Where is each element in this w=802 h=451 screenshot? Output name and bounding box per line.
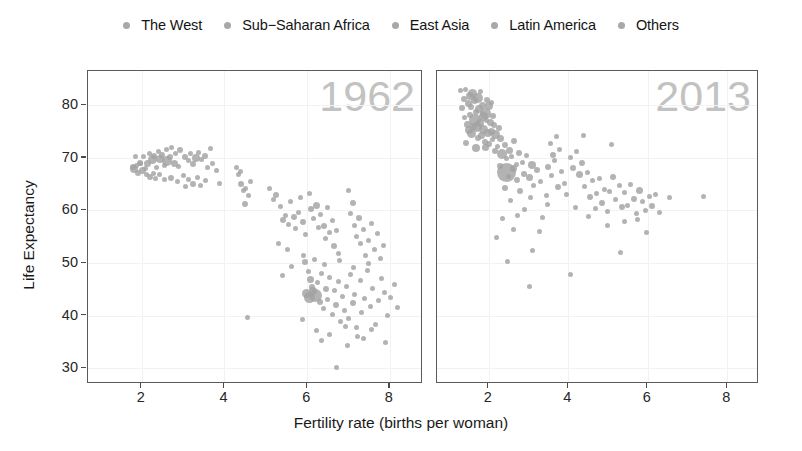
scatter-point bbox=[203, 178, 208, 183]
scatter-point bbox=[463, 140, 469, 146]
gridline-horizontal bbox=[437, 263, 757, 264]
scatter-point bbox=[151, 171, 156, 176]
scatter-point bbox=[622, 219, 627, 224]
scatter-point bbox=[243, 186, 248, 191]
scatter-point bbox=[568, 155, 573, 160]
scatter-point bbox=[183, 184, 188, 189]
scatter-point bbox=[574, 149, 579, 154]
scatter-point bbox=[619, 204, 625, 210]
scatter-point bbox=[361, 336, 366, 341]
scatter-point bbox=[301, 253, 306, 258]
scatter-point bbox=[550, 152, 556, 158]
scatter-point bbox=[327, 230, 332, 235]
gridline-horizontal bbox=[88, 158, 421, 159]
legend-dot-icon bbox=[618, 22, 625, 29]
scatter-point bbox=[334, 228, 339, 233]
scatter-point bbox=[375, 231, 380, 236]
scatter-point bbox=[336, 251, 341, 256]
legend-label: Others bbox=[636, 17, 679, 33]
scatter-point bbox=[459, 105, 465, 111]
legend: The WestSub−Saharan AfricaEast AsiaLatin… bbox=[0, 12, 802, 38]
scatter-point bbox=[610, 174, 616, 180]
scatter-point bbox=[175, 179, 180, 184]
scatter-point bbox=[355, 334, 360, 339]
scatter-point bbox=[640, 199, 645, 204]
legend-item-4[interactable]: Others bbox=[618, 17, 679, 33]
y-axis-label: Life Expectancy bbox=[20, 120, 38, 350]
scatter-point bbox=[176, 164, 181, 169]
scatter-point bbox=[280, 273, 285, 278]
scatter-point bbox=[348, 272, 353, 277]
scatter-point bbox=[363, 253, 368, 258]
scatter-point bbox=[315, 280, 320, 285]
scatter-point bbox=[352, 223, 357, 228]
y-tick-label-70: 70 bbox=[48, 149, 78, 165]
x-tick-label-p1-6: 6 bbox=[635, 389, 659, 405]
y-tick-label-60: 60 bbox=[48, 201, 78, 217]
scatter-point bbox=[350, 300, 356, 306]
scatter-point bbox=[143, 166, 148, 171]
scatter-point bbox=[330, 218, 335, 223]
scatter-point bbox=[248, 179, 253, 184]
scatter-point bbox=[190, 161, 196, 167]
scatter-point bbox=[344, 284, 349, 289]
scatter-point bbox=[482, 144, 489, 151]
scatter-point bbox=[238, 169, 243, 174]
scatter-point bbox=[515, 213, 520, 218]
scatter-point bbox=[319, 338, 324, 343]
scatter-point bbox=[330, 312, 335, 317]
scatter-point bbox=[190, 181, 196, 187]
gridline-horizontal bbox=[88, 210, 421, 211]
scatter-point bbox=[289, 264, 294, 269]
scatter-point bbox=[497, 163, 503, 169]
scatter-point bbox=[534, 167, 540, 173]
scatter-point bbox=[548, 141, 553, 146]
x-tick-label-p0-2: 2 bbox=[129, 389, 153, 405]
scatter-point bbox=[576, 171, 583, 178]
y-tick-mark-30 bbox=[81, 367, 86, 368]
scatter-point bbox=[352, 292, 357, 297]
scatter-point bbox=[636, 187, 643, 194]
legend-item-0[interactable]: The West bbox=[123, 17, 202, 33]
scatter-point bbox=[545, 164, 551, 170]
scatter-point bbox=[195, 175, 200, 180]
scatter-point bbox=[333, 302, 339, 308]
scatter-point bbox=[369, 221, 374, 226]
scatter-point bbox=[490, 113, 496, 119]
scatter-point bbox=[181, 173, 186, 178]
scatter-point bbox=[511, 138, 517, 144]
scatter-point bbox=[586, 214, 591, 219]
legend-item-2[interactable]: East Asia bbox=[392, 17, 470, 33]
scatter-point bbox=[502, 185, 508, 191]
scatter-point bbox=[528, 195, 533, 200]
scatter-point bbox=[208, 146, 213, 151]
legend-item-1[interactable]: Sub−Saharan Africa bbox=[224, 17, 370, 33]
scatter-point bbox=[557, 147, 562, 152]
x-tick-label-p1-2: 2 bbox=[476, 389, 500, 405]
scatter-point bbox=[506, 147, 513, 154]
scatter-point bbox=[622, 190, 627, 195]
scatter-point bbox=[634, 211, 639, 216]
gridline-vertical bbox=[568, 71, 569, 382]
scatter-point bbox=[217, 181, 222, 186]
scatter-point bbox=[196, 150, 201, 155]
scatter-point bbox=[538, 179, 543, 184]
scatter-point bbox=[350, 200, 356, 206]
scatter-point bbox=[587, 194, 593, 200]
legend-item-3[interactable]: Latin America bbox=[491, 17, 596, 33]
y-tick-mark-70 bbox=[81, 156, 86, 157]
scatter-point bbox=[153, 176, 158, 181]
legend-dot-icon bbox=[224, 22, 231, 29]
scatter-point bbox=[300, 219, 306, 225]
scatter-point bbox=[593, 206, 598, 211]
scatter-point bbox=[336, 279, 341, 284]
scatter-point bbox=[325, 297, 330, 302]
scatter-point bbox=[382, 290, 387, 295]
x-tick-label-p1-4: 4 bbox=[555, 389, 579, 405]
scatter-point bbox=[544, 193, 549, 198]
scatter-point bbox=[653, 192, 658, 197]
legend-label: East Asia bbox=[410, 17, 470, 33]
scatter-point bbox=[359, 310, 364, 315]
scatter-point bbox=[605, 209, 610, 214]
scatter-point bbox=[361, 227, 366, 232]
